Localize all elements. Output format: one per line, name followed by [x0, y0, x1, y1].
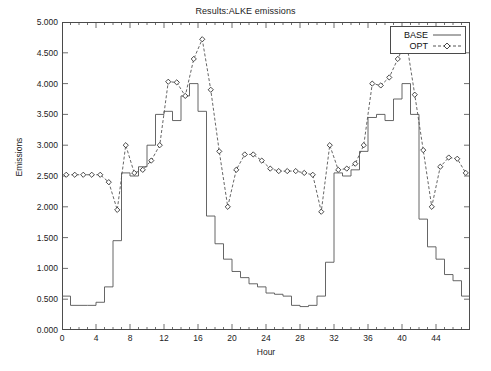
y-tick-label: 1.000: [2, 263, 58, 273]
legend-label-base: BASE: [404, 30, 428, 40]
y-tick-label: 4.500: [2, 48, 58, 58]
chart-title: Results:ALKE emissions: [0, 6, 491, 16]
y-tick-label: 1.500: [2, 233, 58, 243]
series-opt-marker: [285, 168, 290, 173]
series-opt-marker: [387, 75, 392, 80]
x-tick-label: 32: [329, 333, 338, 343]
chart-legend: BASE OPT: [390, 26, 466, 54]
series-opt-marker: [429, 204, 434, 209]
series-opt-marker: [293, 168, 298, 173]
legend-sample-solid-line-icon: [432, 30, 462, 40]
series-opt-marker: [344, 166, 349, 171]
series-opt-marker: [395, 56, 400, 61]
x-axis-tick-labels: 048121620242832364044: [62, 333, 470, 347]
series-opt-marker: [276, 168, 281, 173]
x-tick-label: 40: [397, 333, 406, 343]
series-opt-marker: [234, 167, 239, 172]
x-tick-label: 12: [159, 333, 168, 343]
series-opt-marker: [361, 143, 366, 148]
y-tick-label: 2.500: [2, 171, 58, 181]
series-opt-marker: [64, 172, 69, 177]
y-tick-label: 3.000: [2, 140, 58, 150]
x-tick-label: 28: [295, 333, 304, 343]
legend-sample-dashed-diamond-icon: [432, 41, 462, 51]
legend-entry-base: BASE: [395, 29, 462, 40]
series-opt-marker: [72, 172, 77, 177]
series-opt-marker: [217, 149, 222, 154]
x-tick-label: 8: [128, 333, 133, 343]
y-axis-tick-labels: 0.0000.5001.0001.5002.0002.5003.0003.500…: [0, 22, 58, 330]
series-opt-marker: [183, 93, 188, 98]
y-tick-label: 2.000: [2, 202, 58, 212]
x-tick-label: 44: [431, 333, 440, 343]
series-opt-marker: [463, 170, 468, 175]
legend-entry-opt: OPT: [395, 40, 462, 51]
series-opt-line: [66, 39, 466, 211]
y-tick-label: 0.500: [2, 294, 58, 304]
y-tick-label: 5.000: [2, 17, 58, 27]
series-base-step: [62, 84, 470, 330]
series-opt-marker: [115, 207, 120, 212]
y-tick-label: 4.000: [2, 79, 58, 89]
series-opt-marker: [225, 204, 230, 209]
series-opt-marker: [319, 209, 324, 214]
x-tick-label: 16: [193, 333, 202, 343]
series-opt-marker: [336, 167, 341, 172]
series-opt-marker: [166, 79, 171, 84]
series-opt-marker: [412, 92, 417, 97]
series-opt-marker: [208, 87, 213, 92]
series-opt-marker: [438, 164, 443, 169]
x-tick-label: 4: [94, 333, 99, 343]
series-opt-marker: [123, 143, 128, 148]
series-opt-marker: [455, 156, 460, 161]
series-opt-marker: [200, 37, 205, 42]
x-tick-label: 36: [363, 333, 372, 343]
y-tick-label: 0.000: [2, 325, 58, 335]
x-tick-label: 0: [60, 333, 65, 343]
series-opt-marker: [174, 80, 179, 85]
series-opt-marker: [242, 152, 247, 157]
series-opt-marker: [310, 172, 315, 177]
x-axis-title: Hour: [62, 347, 470, 357]
series-opt-marker: [370, 81, 375, 86]
x-tick-label: 24: [261, 333, 270, 343]
chart-figure: Results:ALKE emissions 0.0000.5001.0001.…: [0, 0, 491, 371]
series-opt-marker: [191, 56, 196, 61]
series-opt-marker: [81, 172, 86, 177]
series-opt-marker: [268, 166, 273, 171]
series-opt-marker: [302, 170, 307, 175]
series-opt-marker: [421, 148, 426, 153]
plot-canvas: [62, 22, 470, 330]
series-opt-marker: [157, 143, 162, 148]
series-opt-marker: [132, 170, 137, 175]
series-opt-marker: [89, 172, 94, 177]
x-tick-label: 20: [227, 333, 236, 343]
y-axis-title: Emissions: [14, 122, 24, 192]
series-opt-marker: [353, 161, 358, 166]
y-tick-label: 3.500: [2, 109, 58, 119]
series-opt-marker: [327, 143, 332, 148]
legend-label-opt: OPT: [409, 41, 428, 51]
